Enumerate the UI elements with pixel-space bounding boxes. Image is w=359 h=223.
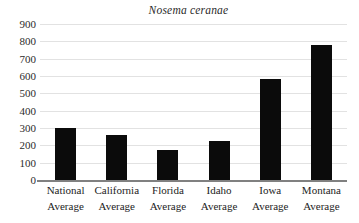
y-tick-300: 300: [0, 122, 36, 134]
y-tick-600: 600: [0, 70, 36, 82]
gridline-800: [40, 41, 347, 42]
y-tick-200: 200: [0, 139, 36, 151]
x-label-line1: California: [94, 184, 139, 196]
x-label-line2: Average: [302, 199, 341, 215]
x-label-line2: Average: [150, 199, 186, 215]
plot-area: [40, 24, 347, 180]
bar-chart: Nosema ceranae 900 800 700 600 500 400 3…: [0, 0, 359, 223]
x-label-line1: Florida: [152, 184, 184, 196]
x-axis-baseline: [37, 180, 347, 182]
x-label-montana-average: Montana Average: [302, 183, 341, 214]
y-axis: 900 800 700 600 500 400 300 200 100 0: [0, 24, 36, 180]
gridline-400: [40, 111, 347, 112]
bar-iowa-average: [260, 79, 281, 180]
bar-california-average: [106, 135, 127, 180]
bar-idaho-average: [209, 141, 230, 180]
y-tick-800: 800: [0, 35, 36, 47]
x-label-line2: Average: [201, 199, 237, 215]
gridline-100: [40, 163, 347, 164]
x-axis-labels: National Average California Average Flor…: [40, 183, 347, 223]
x-label-line1: Montana: [302, 184, 341, 196]
x-label-line2: Average: [94, 199, 139, 215]
x-label-california-average: California Average: [94, 183, 139, 214]
gridline-200: [40, 145, 347, 146]
chart-title: Nosema ceranae: [0, 4, 359, 16]
y-tick-700: 700: [0, 53, 36, 65]
x-label-idaho-average: Idaho Average: [201, 183, 237, 214]
gridline-700: [40, 59, 347, 60]
y-tick-400: 400: [0, 105, 36, 117]
gridline-600: [40, 76, 347, 77]
x-label-national-average: National Average: [47, 183, 85, 214]
x-label-florida-average: Florida Average: [150, 183, 186, 214]
y-tick-0: 0: [0, 174, 36, 186]
bar-florida-average: [157, 150, 178, 180]
bar-national-average: [55, 128, 76, 180]
y-tick-900: 900: [0, 18, 36, 30]
bar-montana-average: [311, 45, 332, 180]
gridline-900: [40, 24, 347, 25]
x-label-iowa-average: Iowa Average: [252, 183, 288, 214]
y-tick-100: 100: [0, 157, 36, 169]
x-label-line1: National: [47, 184, 85, 196]
x-label-line1: Idaho: [207, 184, 232, 196]
gridline-300: [40, 128, 347, 129]
y-tick-500: 500: [0, 87, 36, 99]
x-label-line2: Average: [252, 199, 288, 215]
x-label-line1: Iowa: [259, 184, 281, 196]
gridline-500: [40, 93, 347, 94]
x-label-line2: Average: [47, 199, 85, 215]
